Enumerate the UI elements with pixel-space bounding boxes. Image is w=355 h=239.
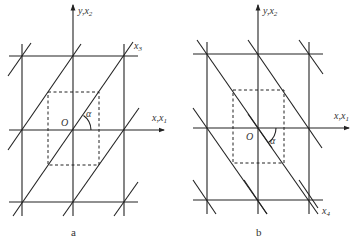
caption-b: b	[256, 226, 262, 238]
angle-label: α	[86, 108, 92, 119]
diagonal-line	[299, 40, 323, 74]
lattice-diagram: y,x2 x,x1 x3 O α a y,x2 x,x1 x4 O α b	[0, 0, 355, 239]
caption-a: a	[71, 226, 76, 238]
y-axis-label: y,x2	[262, 5, 278, 18]
diagonal-line	[244, 180, 267, 214]
angle-label: α	[270, 135, 276, 146]
x-axis-label: x,x1	[151, 112, 167, 125]
diagonal-line	[63, 108, 139, 216]
origin-label: O	[246, 131, 253, 142]
y-axis-label: y,x2	[77, 5, 93, 18]
x3-label: x3	[133, 40, 142, 53]
x4-label: x4	[321, 205, 330, 218]
x-axis-label: x,x1	[333, 110, 349, 123]
diagonal-line	[8, 43, 31, 76]
panel-b: y,x2 x,x1 x4 O α b	[193, 5, 349, 238]
diagonal-line	[114, 182, 138, 216]
panel-a: y,x2 x,x1 x3 O α a	[8, 5, 167, 238]
origin-label: O	[61, 117, 68, 128]
diagonal-line	[193, 180, 216, 214]
